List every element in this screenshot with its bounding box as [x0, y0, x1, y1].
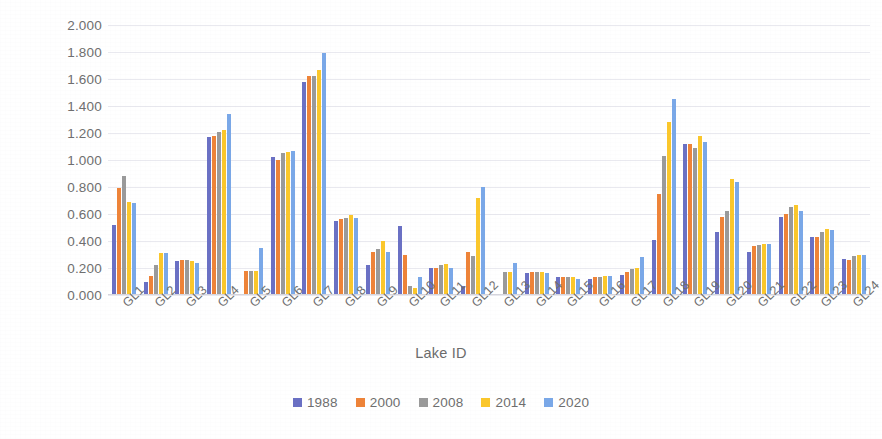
bar	[683, 144, 687, 295]
bar-group	[235, 25, 267, 295]
bar	[207, 137, 211, 295]
bar-group	[838, 25, 870, 295]
y-axis-tick-label: 1.800	[40, 45, 102, 60]
bar-group	[775, 25, 807, 295]
y-axis-tick-label: 1.400	[40, 99, 102, 114]
bar	[281, 153, 285, 295]
x-axis-tick-slot: GL14	[521, 296, 553, 344]
bar	[276, 160, 280, 295]
bar	[122, 176, 126, 295]
x-axis-tick-slot: GL4	[203, 296, 235, 344]
bar	[476, 198, 480, 295]
bar	[291, 151, 295, 295]
bar-group	[553, 25, 585, 295]
bar	[127, 202, 131, 295]
bar	[376, 249, 380, 295]
legend-item[interactable]: 1988	[293, 395, 338, 410]
bar	[820, 232, 824, 295]
bar	[703, 142, 707, 295]
x-axis-tick-slot: GL10	[394, 296, 426, 344]
y-axis-tick-label: 1.600	[40, 72, 102, 87]
y-axis-tick-label: 0.800	[40, 180, 102, 195]
bar-group	[457, 25, 489, 295]
bar	[117, 188, 121, 295]
x-axis-tick-slot: GL24	[838, 296, 870, 344]
bar-chart: Area (km2) 0.0000.2000.4000.6000.8001.00…	[0, 0, 882, 439]
x-axis-tick-slot: GL15	[553, 296, 585, 344]
bar	[799, 211, 803, 295]
bar	[794, 205, 798, 295]
y-axis-tick-label: 0.600	[40, 207, 102, 222]
bar	[725, 211, 729, 295]
legend-item[interactable]: 2014	[481, 395, 526, 410]
bar	[212, 136, 216, 295]
x-axis-tick-slot: GL13	[489, 296, 521, 344]
plot-area	[108, 25, 870, 295]
x-axis-tick-slot: GL2	[140, 296, 172, 344]
x-axis-tick-slot: GL9	[362, 296, 394, 344]
bar	[249, 271, 253, 295]
x-axis-tick-slot: GL19	[680, 296, 712, 344]
bar	[227, 114, 231, 295]
bar-group	[648, 25, 680, 295]
bar	[302, 82, 306, 295]
bar-group	[521, 25, 553, 295]
legend-item[interactable]: 2008	[419, 395, 464, 410]
bar	[688, 144, 692, 295]
bar	[471, 256, 475, 295]
bar	[789, 207, 793, 295]
bar	[530, 272, 534, 295]
legend-label: 2020	[558, 395, 589, 410]
bar	[667, 122, 671, 295]
bar-group	[489, 25, 521, 295]
y-axis-tick-label: 0.400	[40, 234, 102, 249]
y-axis-tick-label: 0.200	[40, 261, 102, 276]
bar-group	[743, 25, 775, 295]
x-axis-tick-slot: GL12	[457, 296, 489, 344]
bar-group	[299, 25, 331, 295]
bar	[244, 271, 248, 295]
bar-group	[108, 25, 140, 295]
bar	[307, 76, 311, 295]
bar	[344, 218, 348, 295]
bar	[757, 245, 761, 295]
bar-group	[330, 25, 362, 295]
bar	[403, 255, 407, 296]
chart-legend: 19882000200820142020	[0, 395, 882, 410]
bar	[784, 214, 788, 295]
bar-group	[711, 25, 743, 295]
bar	[657, 194, 661, 295]
bar-group	[394, 25, 426, 295]
bar-group	[203, 25, 235, 295]
legend-swatch-icon	[293, 398, 302, 407]
bar	[349, 215, 353, 295]
x-axis-tick-slot: GL7	[299, 296, 331, 344]
bar-group	[584, 25, 616, 295]
legend-label: 2008	[433, 395, 464, 410]
bar	[334, 221, 338, 295]
x-axis-tick-slot: GL22	[775, 296, 807, 344]
legend-item[interactable]: 2000	[356, 395, 401, 410]
x-axis-tick-slot: GL5	[235, 296, 267, 344]
x-axis-tick-labels: GL1GL2GL3GL4GL5GL6GL7GL8GL9GL10GL11GL12G…	[108, 296, 870, 344]
bar	[322, 53, 326, 295]
bar	[825, 229, 829, 295]
bar	[371, 252, 375, 295]
x-axis-tick-slot: GL18	[648, 296, 680, 344]
y-axis-tick-label: 1.200	[40, 126, 102, 141]
legend-swatch-icon	[544, 398, 553, 407]
bar-group	[362, 25, 394, 295]
bar-group	[680, 25, 712, 295]
bar	[535, 272, 539, 295]
bar	[112, 225, 116, 295]
legend-item[interactable]: 2020	[544, 395, 589, 410]
bar	[185, 260, 189, 295]
bar	[598, 277, 602, 295]
x-axis-tick-slot: GL21	[743, 296, 775, 344]
bar	[762, 244, 766, 295]
bar	[672, 99, 676, 295]
legend-label: 1988	[307, 395, 338, 410]
bar	[381, 241, 385, 295]
x-axis-tick-slot: GL16	[584, 296, 616, 344]
y-axis-tick-label: 2.000	[40, 18, 102, 33]
